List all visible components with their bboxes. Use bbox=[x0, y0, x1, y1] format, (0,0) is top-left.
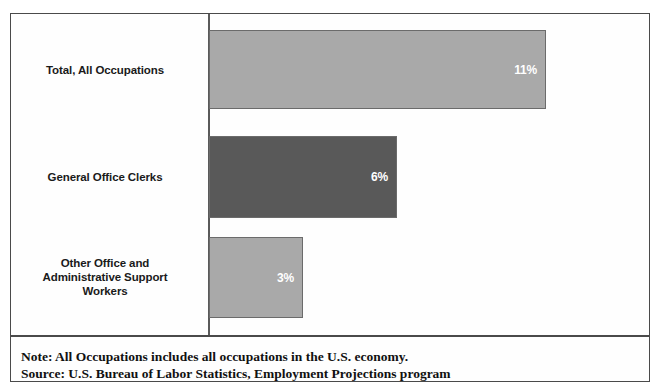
footnote-source: Source: U.S. Bureau of Labor Statistics,… bbox=[21, 365, 649, 382]
bar-label-line: Other Office and bbox=[11, 256, 199, 270]
bar-value-label: 3% bbox=[277, 271, 294, 285]
bar-total-all-occupations[interactable]: 11% bbox=[209, 30, 546, 109]
bar-label-line: Workers bbox=[11, 284, 199, 298]
bar-value-label: 6% bbox=[371, 170, 388, 184]
plot-area: Total, All Occupations 11% General Offic… bbox=[11, 14, 649, 335]
bar-row: General Office Clerks 6% bbox=[11, 136, 649, 218]
footnote-note: Note: All Occupations includes all occup… bbox=[21, 348, 649, 365]
bar-label-line: Total, All Occupations bbox=[11, 63, 199, 77]
bar-category-label: General Office Clerks bbox=[11, 170, 199, 184]
bar-category-label: Total, All Occupations bbox=[11, 63, 199, 77]
bar-other-office-admin-support-workers[interactable]: 3% bbox=[209, 237, 303, 318]
bar-label-line: Administrative Support bbox=[11, 270, 199, 284]
chart-figure: Total, All Occupations 11% General Offic… bbox=[10, 13, 650, 382]
bar-general-office-clerks[interactable]: 6% bbox=[209, 136, 397, 218]
footnote-block: Note: All Occupations includes all occup… bbox=[11, 337, 649, 382]
bar-row: Total, All Occupations 11% bbox=[11, 30, 649, 109]
bar-category-label: Other Office and Administrative Support … bbox=[11, 256, 199, 298]
bar-value-label: 11% bbox=[514, 63, 537, 77]
bar-label-line: General Office Clerks bbox=[11, 170, 199, 184]
bar-row: Other Office and Administrative Support … bbox=[11, 237, 649, 318]
